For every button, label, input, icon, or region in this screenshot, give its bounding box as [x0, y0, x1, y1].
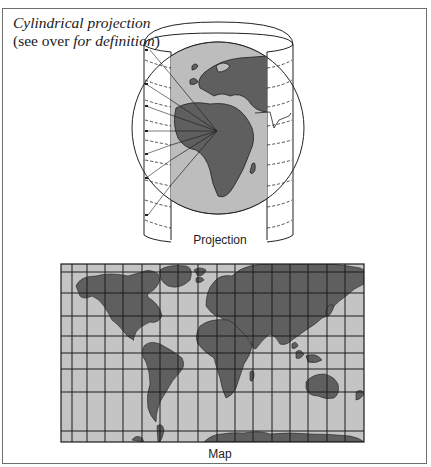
map-caption: Map	[190, 447, 250, 461]
world-map	[0, 0, 431, 467]
